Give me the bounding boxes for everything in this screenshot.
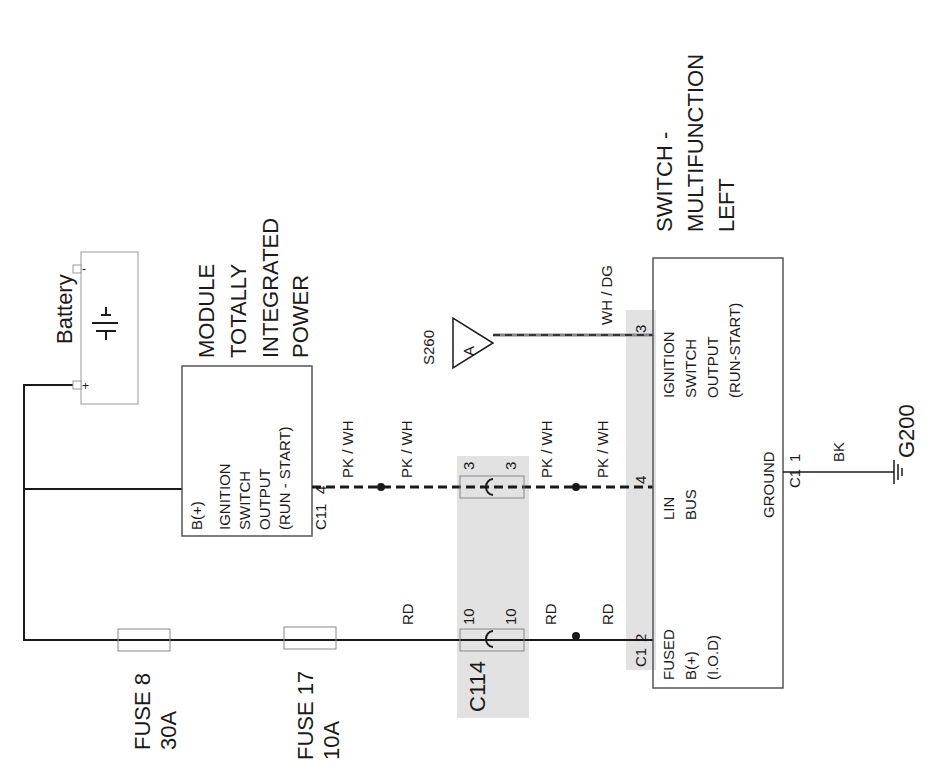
fuse-8-rating: 30A (156, 711, 181, 750)
splice-s260-triangle-icon (453, 318, 493, 368)
c114-label: C114 (465, 661, 490, 712)
switch-pin-ign-1: IGNITION (660, 331, 677, 398)
splice-s260-ref: A (460, 346, 477, 356)
switch-pin-4: 4 (632, 476, 649, 484)
fuse-8-label: FUSE 8 (130, 673, 155, 750)
switch-c1-label: C1 (632, 648, 649, 667)
tipm-title-2: TOTALLY (226, 264, 251, 358)
switch-title-2: MULTIFUNCTION (683, 54, 708, 232)
battery-icon (92, 307, 118, 340)
switch-pin-ign-4: (RUN-START) (726, 303, 743, 398)
tipm-title-3: INTEGRATED (258, 218, 283, 358)
switch-title-3: LEFT (714, 178, 739, 232)
wire-pk-wh-1: PK / WH (339, 420, 356, 478)
battery-box (81, 252, 138, 404)
wire-pk-wh-4: PK / WH (594, 420, 611, 478)
splice-dot-1 (377, 483, 385, 491)
switch-pin-ign-3: OUTPUT (704, 336, 721, 398)
wire-pk-wh-3: PK / WH (538, 420, 555, 478)
tipm-pin-ign-2: SWITCH (236, 471, 253, 530)
tipm-pin-ign-4: (RUN - START) (276, 426, 293, 530)
wire-rd-1: RD (399, 603, 416, 625)
tipm-pin-ign-1: IGNITION (216, 463, 233, 530)
tipm-pin-bplus: B(+) (188, 501, 205, 530)
battery-negative-terminal (73, 265, 81, 273)
switch-pin-fused-3: (I.O.D) (704, 635, 721, 680)
ground-icon (894, 460, 902, 484)
wire-bk: BK (830, 442, 847, 462)
fuse-17-label: FUSE 17 (293, 671, 318, 760)
switch-pin-lin-2: BUS (682, 489, 699, 520)
splice-dot-2 (572, 483, 580, 491)
wire-wh-dg: WH / DG (598, 265, 615, 325)
switch-pin-2: 2 (632, 634, 649, 642)
wiring-diagram: - + Battery MODULE TOTALLY INTEGRATED PO… (0, 0, 934, 766)
wire-pk-wh-2: PK / WH (398, 420, 415, 478)
battery-negative-sign: - (82, 262, 86, 276)
wire-rd-2: RD (542, 603, 559, 625)
fuse-17-symbol (284, 627, 336, 649)
battery-label: Battery (52, 274, 77, 344)
splice-s260-label: S260 (420, 330, 437, 365)
switch-pin-3: 3 (632, 325, 649, 333)
ground-g200-label: G200 (894, 404, 919, 458)
switch-pin-lin-1: LIN (660, 497, 677, 520)
c114-pin10-right: 10 (502, 608, 519, 625)
tipm-connector-c11: C11 (312, 504, 329, 530)
fuse-17-rating: 10A (319, 721, 344, 760)
switch-title-1: SWITCH - (652, 132, 677, 232)
tipm-title-4: POWER (288, 275, 313, 358)
c114-pin3-right: 3 (502, 462, 519, 470)
c114-pin3-left: 3 (460, 462, 477, 470)
switch-connector-shade (626, 310, 656, 670)
switch-ground-pin-1: 1 (786, 454, 803, 462)
battery-positive-terminal (73, 381, 81, 389)
splice-dot-rd (572, 632, 580, 640)
switch-pin-fused-2: B(+) (682, 651, 699, 680)
tipm-pin-ign-3: OUTPUT (256, 468, 273, 530)
switch-pin-fused-1: FUSED (660, 629, 677, 680)
battery-positive-sign: + (82, 379, 89, 393)
c114-pin10-left: 10 (460, 608, 477, 625)
tipm-title-1: MODULE (194, 264, 219, 358)
switch-pin-ign-2: SWITCH (682, 339, 699, 398)
wire-rd-3: RD (599, 603, 616, 625)
switch-pin-ground: GROUND (760, 451, 777, 518)
